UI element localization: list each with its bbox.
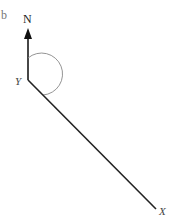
point-x-label: X (159, 206, 166, 216)
part-label: b (1, 9, 7, 21)
bearing-diagram: b N Y X (0, 0, 170, 216)
point-y-label: Y (15, 76, 21, 87)
north-label: N (23, 13, 32, 25)
line-yx (28, 80, 156, 209)
north-arrowhead-icon (24, 28, 32, 39)
bearing-angle-arc (28, 53, 63, 95)
diagram-svg (0, 0, 170, 216)
